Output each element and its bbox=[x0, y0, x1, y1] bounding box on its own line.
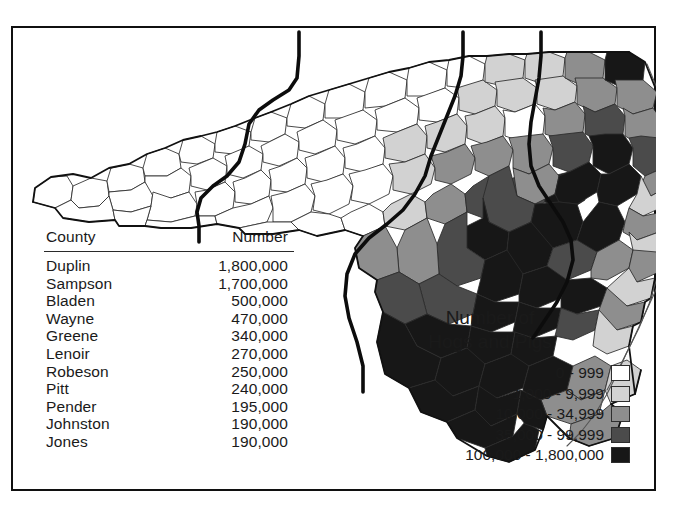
cell-county: Sampson bbox=[44, 275, 162, 293]
legend-row: 0 - 999 bbox=[372, 363, 630, 384]
legend-swatch bbox=[611, 427, 630, 443]
legend-title-line-1: Number of bbox=[372, 306, 608, 330]
legend-swatch bbox=[611, 406, 630, 422]
cell-number: 190,000 bbox=[162, 433, 294, 451]
legend-title-line-2: Hogs and Pigs bbox=[372, 330, 608, 354]
table-row: Pitt240,000 bbox=[44, 381, 294, 399]
table-row: Jones190,000 bbox=[44, 433, 294, 451]
legend-row: 35,000 - 99,999 bbox=[372, 425, 630, 446]
legend-swatch bbox=[611, 447, 630, 463]
cell-number: 190,000 bbox=[162, 416, 294, 434]
cell-number: 500,000 bbox=[162, 293, 294, 311]
legend-title: Number of Hogs and Pigs bbox=[372, 306, 630, 354]
cell-number: 270,000 bbox=[162, 345, 294, 363]
cell-number: 470,000 bbox=[162, 310, 294, 328]
cell-county: Jones bbox=[44, 433, 162, 451]
cell-number: 340,000 bbox=[162, 328, 294, 346]
cell-county: Wayne bbox=[44, 310, 162, 328]
cell-number: 250,000 bbox=[162, 363, 294, 381]
cell-county: Johnston bbox=[44, 416, 162, 434]
cell-number: 195,000 bbox=[162, 398, 294, 416]
top-hog-counties-table: County Number Duplin1,800,000Sampson1,70… bbox=[44, 228, 294, 451]
legend-label: 0 - 999 bbox=[556, 364, 604, 382]
column-header-county: County bbox=[44, 228, 162, 252]
table-row: Duplin1,800,000 bbox=[44, 252, 294, 276]
county-number-table: County Number Duplin1,800,000Sampson1,70… bbox=[44, 228, 294, 451]
table-header-row: County Number bbox=[44, 228, 294, 252]
table-row: Sampson1,700,000 bbox=[44, 275, 294, 293]
legend-label: 1,000 - 9,999 bbox=[513, 385, 604, 403]
legend-row: 1,000 - 9,999 bbox=[372, 384, 630, 405]
hogs-and-pigs-map-figure: County Number Duplin1,800,000Sampson1,70… bbox=[0, 0, 674, 511]
table-header: County Number bbox=[44, 228, 294, 252]
cell-county: Duplin bbox=[44, 252, 162, 276]
table-row: Johnston190,000 bbox=[44, 416, 294, 434]
legend-swatch bbox=[611, 365, 630, 381]
cell-county: Lenoir bbox=[44, 345, 162, 363]
cell-number: 1,800,000 bbox=[162, 252, 294, 276]
table-row: Robeson250,000 bbox=[44, 363, 294, 381]
map-legend: Number of Hogs and Pigs 0 - 9991,000 - 9… bbox=[372, 306, 630, 466]
legend-row: 10,000 - 34,999 bbox=[372, 404, 630, 425]
cell-county: Greene bbox=[44, 328, 162, 346]
legend-label: 10,000 - 34,999 bbox=[495, 405, 604, 423]
cell-county: Pitt bbox=[44, 381, 162, 399]
table-row: Greene340,000 bbox=[44, 328, 294, 346]
legend-label: 100,000 - 1,800,000 bbox=[465, 446, 604, 464]
legend-class-list: 0 - 9991,000 - 9,99910,000 - 34,99935,00… bbox=[372, 363, 630, 466]
table-row: Pender195,000 bbox=[44, 398, 294, 416]
legend-label: 35,000 - 99,999 bbox=[495, 426, 604, 444]
column-header-number: Number bbox=[162, 228, 294, 252]
cell-county: Pender bbox=[44, 398, 162, 416]
cell-county: Bladen bbox=[44, 293, 162, 311]
table-row: Bladen500,000 bbox=[44, 293, 294, 311]
legend-row: 100,000 - 1,800,000 bbox=[372, 445, 630, 466]
table-body: Duplin1,800,000Sampson1,700,000Bladen500… bbox=[44, 252, 294, 452]
legend-swatch bbox=[611, 386, 630, 402]
table-row: Lenoir270,000 bbox=[44, 345, 294, 363]
table-row: Wayne470,000 bbox=[44, 310, 294, 328]
cell-number: 1,700,000 bbox=[162, 275, 294, 293]
cell-number: 240,000 bbox=[162, 381, 294, 399]
cell-county: Robeson bbox=[44, 363, 162, 381]
